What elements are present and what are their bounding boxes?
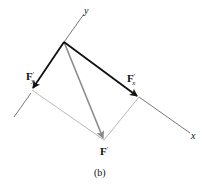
resultant-label: F′ [100, 145, 109, 157]
y-axis-upper [64, 14, 84, 42]
construction-line-fx-to-f [104, 97, 139, 140]
figure-caption: (b) [94, 167, 106, 179]
y-axis-label: y [83, 5, 89, 16]
fx-label: F′x [127, 72, 136, 87]
x-axis-label: x [190, 130, 196, 141]
component-vector-fy [33, 42, 64, 88]
fy-label: F′y [26, 70, 35, 85]
x-axis [139, 97, 190, 133]
y-axis-lower [14, 93, 31, 117]
force-diagram: y x F′y F′x F′ (b) [0, 0, 204, 187]
